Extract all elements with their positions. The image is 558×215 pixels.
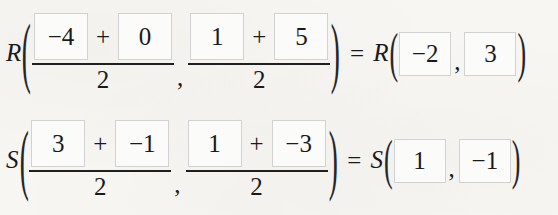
paren-close-icon: ) (331, 14, 340, 93)
input-box-R-result-x[interactable]: −2 (399, 32, 451, 76)
paren-open-icon: ( (22, 14, 31, 93)
equation-row-R: R ( −4 + 0 2 , 1 + 5 2 ) = R ( (0, 0, 558, 107)
input-box-S-result-y[interactable]: −1 (459, 139, 511, 183)
function-label-R: R (6, 40, 21, 67)
rhs-result-S: S ( 1 , −1 ) (370, 139, 521, 183)
y-midpoint-fraction-S: 1 + −3 2 (186, 120, 328, 202)
equation-row-S: S ( 3 + −1 2 , 1 + −3 2 ) = S ( 1 , (0, 106, 558, 215)
paren-close-icon: ) (328, 121, 337, 200)
y-denominator-S: 2 (186, 172, 328, 202)
result-label-S: S (370, 147, 383, 174)
input-box-S-x-term1[interactable]: 3 (31, 120, 85, 167)
input-box-R-y-term1[interactable]: 1 (190, 13, 244, 60)
x-denominator-S: 2 (29, 172, 171, 202)
plus-icon: + (92, 131, 108, 156)
paren-close-icon: ) (517, 22, 526, 85)
coordinate-separator-comma: , (174, 65, 188, 94)
lhs-expression-S: S ( 3 + −1 2 , 1 + −3 2 ) (6, 120, 338, 202)
equals-icon: = (338, 148, 370, 173)
x-midpoint-fraction-R: −4 + 0 2 (32, 13, 174, 95)
input-box-S-y-term2[interactable]: −3 (272, 120, 326, 167)
lhs-expression-R: R ( −4 + 0 2 , 1 + 5 2 ) (6, 13, 341, 95)
input-box-S-result-x[interactable]: 1 (394, 139, 446, 183)
x-numerator-S: 3 + −1 (29, 120, 171, 170)
x-midpoint-fraction-S: 3 + −1 2 (29, 120, 171, 202)
plus-icon: + (249, 131, 265, 156)
rhs-result-R: R ( −2 , 3 ) (373, 32, 527, 76)
x-numerator-R: −4 + 0 (32, 13, 174, 63)
input-box-S-x-term2[interactable]: −1 (115, 120, 169, 167)
plus-icon: + (95, 24, 111, 49)
coordinate-separator-comma: , (451, 49, 464, 76)
coordinate-separator-comma: , (446, 156, 459, 183)
x-denominator-R: 2 (32, 65, 174, 95)
plus-icon: + (251, 24, 267, 49)
coordinate-separator-comma: , (171, 172, 185, 201)
input-box-R-x-term1[interactable]: −4 (34, 13, 88, 60)
input-box-R-x-term2[interactable]: 0 (118, 13, 172, 60)
equals-icon: = (341, 41, 373, 66)
y-denominator-R: 2 (188, 65, 330, 95)
paren-close-icon: ) (512, 129, 521, 192)
input-box-R-y-term2[interactable]: 5 (274, 13, 328, 60)
paren-open-icon: ( (384, 129, 393, 192)
paren-open-icon: ( (389, 22, 398, 85)
y-numerator-R: 1 + 5 (188, 13, 330, 63)
y-numerator-S: 1 + −3 (186, 120, 328, 170)
input-box-S-y-term1[interactable]: 1 (188, 120, 242, 167)
input-box-R-result-y[interactable]: 3 (464, 32, 516, 76)
result-label-R: R (373, 40, 388, 67)
function-label-S: S (6, 147, 19, 174)
y-midpoint-fraction-R: 1 + 5 2 (188, 13, 330, 95)
paren-open-icon: ( (19, 121, 28, 200)
